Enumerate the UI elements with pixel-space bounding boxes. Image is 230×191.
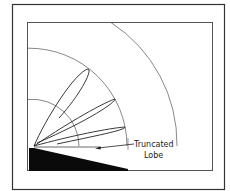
annotation-lobe: Lobe (144, 151, 163, 160)
lobes (34, 69, 125, 146)
inner-arc (28, 99, 79, 146)
annotation-truncated: Truncated (133, 140, 174, 149)
middle-arc (28, 48, 127, 146)
truncated-lobe-leader (95, 138, 134, 150)
ground-wedge (29, 148, 128, 171)
range-arcs (28, 23, 177, 147)
radiation-pattern-diagram: Truncated Lobe (0, 0, 230, 191)
inner-frame (28, 23, 213, 171)
middle-lobe (34, 99, 115, 146)
